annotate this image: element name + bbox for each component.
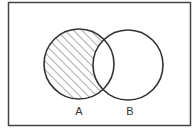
- set-a-label: A: [75, 105, 83, 117]
- set-b-label: B: [126, 105, 133, 117]
- venn-diagram: A B: [0, 0, 196, 129]
